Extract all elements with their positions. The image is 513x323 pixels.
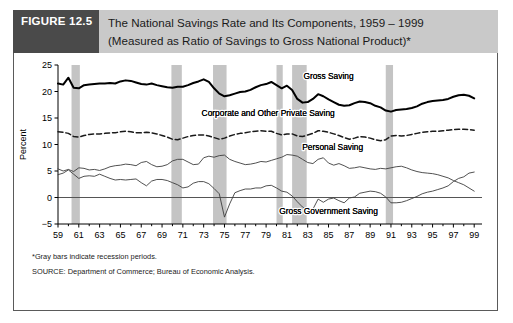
footnote-source: SOURCE: Department of Commerce; Bureau o…	[32, 267, 255, 276]
figure-title-line-1: The National Savings Rate and Its Compon…	[108, 14, 498, 32]
series-annotation: Gross Saving	[303, 71, 354, 81]
footnote-gray-bars: *Gray bars indicate recession periods.	[32, 252, 157, 261]
series-annotation: Gross Government Saving	[279, 206, 378, 216]
x-axis-tick-label: 91	[386, 230, 396, 240]
series-line-corporate-and-other-private-saving	[58, 129, 474, 141]
figure-container: FIGURE 12.5 The National Savings Rate an…	[13, 10, 498, 311]
x-axis-tick-label: 75	[219, 230, 229, 240]
recession-band	[171, 65, 181, 224]
x-axis-tick-label: 89	[365, 230, 375, 240]
x-axis-tick-label: 79	[261, 230, 271, 240]
x-axis-tick-label: 81	[282, 230, 292, 240]
series-annotation: Corporate and Other Private Saving	[202, 108, 335, 118]
x-axis-tick-label: 95	[428, 230, 438, 240]
x-axis-tick-label: 71	[178, 230, 188, 240]
x-axis-tick-label: 93	[407, 230, 417, 240]
x-axis-tick-label: 87	[344, 230, 354, 240]
figure-number-tag: FIGURE 12.5	[13, 10, 99, 53]
figure-title-line-2: (Measured as Ratio of Savings to Gross N…	[108, 32, 498, 50]
series-line-gross-government-saving	[58, 170, 474, 217]
figure-title: The National Savings Rate and Its Compon…	[99, 10, 498, 53]
x-axis-tick-label: 61	[74, 230, 84, 240]
x-axis-tick-label: 83	[303, 230, 313, 240]
x-axis-tick-label: 99	[469, 230, 479, 240]
y-axis-tick-label: 0	[47, 193, 52, 203]
figure-header: FIGURE 12.5 The National Savings Rate an…	[13, 10, 498, 53]
y-axis-tick-label: 5	[47, 166, 52, 176]
figure-body: −50510152025Percent596163656769717375777…	[13, 53, 498, 311]
x-axis-tick-label: 73	[199, 230, 209, 240]
x-axis-tick-label: 67	[136, 230, 146, 240]
y-axis-tick-label: 20	[42, 87, 52, 97]
y-axis-tick-label: 10	[42, 140, 52, 150]
y-axis-title: Percent	[18, 128, 28, 160]
x-axis-tick-label: 63	[95, 230, 105, 240]
series-line-gross-saving	[58, 78, 474, 112]
x-axis-tick-label: 97	[448, 230, 458, 240]
y-axis-tick-label: 15	[42, 113, 52, 123]
y-axis-tick-label: 25	[42, 60, 52, 70]
y-axis-tick-label: −5	[42, 219, 52, 229]
recession-band	[386, 65, 393, 224]
x-axis-tick-label: 59	[53, 230, 63, 240]
x-axis-tick-label: 65	[115, 230, 125, 240]
x-axis-tick-label: 69	[157, 230, 167, 240]
series-annotation: Personal Saving	[302, 142, 363, 152]
savings-rate-line-chart: −50510152025Percent596163656769717375777…	[14, 53, 497, 248]
x-axis-tick-label: 77	[240, 230, 250, 240]
x-axis-tick-label: 85	[324, 230, 334, 240]
